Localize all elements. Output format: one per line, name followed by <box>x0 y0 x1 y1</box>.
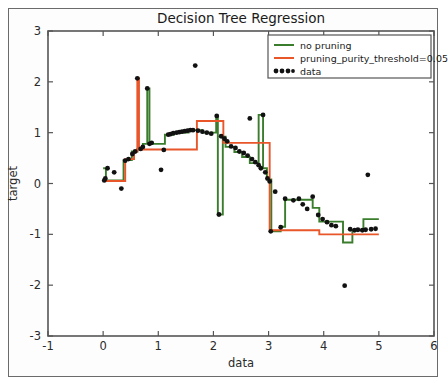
figure-canvas: -10123456-3-2-10123Decision Tree Regress… <box>0 0 448 383</box>
legend-swatch-dots <box>274 69 279 74</box>
data-point <box>233 146 238 151</box>
data-point <box>300 202 305 207</box>
legend-label: no pruning <box>300 40 352 51</box>
data-point <box>204 130 209 135</box>
data-point <box>229 144 234 149</box>
data-point <box>261 112 266 117</box>
x-tick-label: 5 <box>375 339 382 353</box>
data-point <box>329 223 334 228</box>
legend-swatch-dots <box>286 69 291 74</box>
data-point <box>145 86 150 91</box>
x-axis-label: data <box>228 356 254 370</box>
data-point <box>103 176 108 181</box>
data-point <box>105 166 110 171</box>
data-point <box>325 220 330 225</box>
data-point <box>159 167 164 172</box>
x-tick-label: 6 <box>430 339 437 353</box>
data-point <box>305 207 310 212</box>
data-point <box>193 63 198 68</box>
data-point <box>369 227 374 232</box>
data-point <box>283 196 288 201</box>
data-point <box>291 198 296 203</box>
data-point <box>200 129 205 134</box>
x-tick-label: 3 <box>265 339 272 353</box>
data-point <box>135 76 140 81</box>
y-tick-label: 3 <box>34 24 41 38</box>
data-point <box>126 157 131 162</box>
data-point <box>258 166 263 171</box>
y-tick-label: 1 <box>34 126 41 140</box>
decision-tree-regression-chart: -10123456-3-2-10123Decision Tree Regress… <box>0 0 448 383</box>
data-point <box>263 170 268 175</box>
data-point <box>237 149 242 154</box>
data-point <box>140 145 145 150</box>
data-point <box>191 128 196 133</box>
data-point <box>310 194 315 199</box>
data-point <box>278 225 283 230</box>
y-tick-label: -2 <box>30 278 41 292</box>
x-tick-label: 4 <box>320 339 327 353</box>
data-point <box>365 172 370 177</box>
data-point <box>225 139 230 144</box>
y-tick-label: -3 <box>30 329 41 343</box>
x-tick-label: 1 <box>155 339 162 353</box>
chart-title: Decision Tree Regression <box>157 10 325 26</box>
data-point <box>320 217 325 222</box>
data-point <box>356 227 361 232</box>
data-point <box>363 227 368 232</box>
data-point <box>214 113 219 118</box>
data-point <box>196 128 201 133</box>
data-point <box>342 283 347 288</box>
data-point <box>316 213 321 218</box>
y-tick-label: -1 <box>30 227 41 241</box>
data-point <box>161 148 166 153</box>
y-axis-label: target <box>6 166 20 201</box>
y-tick-label: 0 <box>34 177 41 191</box>
data-point <box>373 226 378 231</box>
x-tick-label: 0 <box>99 339 106 353</box>
data-point <box>217 212 222 217</box>
data-point <box>247 116 252 121</box>
x-tick-label: 2 <box>210 339 217 353</box>
data-point <box>209 131 214 136</box>
data-point <box>297 196 302 201</box>
legend-swatch-dots <box>280 69 285 74</box>
x-tick-label: -1 <box>42 339 53 353</box>
data-point <box>268 229 273 234</box>
y-tick-label: 2 <box>34 75 41 89</box>
data-point <box>119 186 124 191</box>
data-point <box>267 179 272 184</box>
data-point <box>149 140 154 145</box>
data-point <box>333 224 338 229</box>
legend-label: pruning_purity_threshold=0.05 <box>300 53 448 64</box>
data-point <box>112 170 117 175</box>
data-point <box>245 153 250 158</box>
data-point <box>348 227 353 232</box>
data-point <box>273 189 278 194</box>
data-point <box>133 149 138 154</box>
legend-swatch-dots <box>291 69 295 73</box>
legend-label: data <box>300 66 321 77</box>
